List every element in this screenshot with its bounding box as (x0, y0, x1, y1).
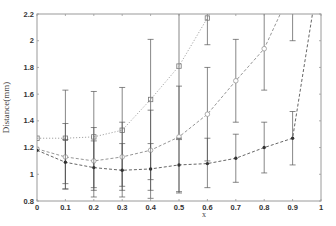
x-tick-label: 0.4 (145, 203, 156, 212)
x-tick-label: 0.2 (89, 203, 99, 212)
y-tick-label: 1.4 (24, 116, 35, 125)
y-tick-label: 1.6 (24, 90, 34, 99)
distance-vs-x-chart: 00.10.20.30.40.50.60.70.80.910.811.21.41… (0, 0, 336, 226)
filled-circle-marker (64, 161, 67, 164)
x-tick-label: 0.1 (60, 203, 70, 212)
y-tick-label: 1.8 (24, 63, 34, 72)
x-tick-label: 0.5 (174, 203, 184, 212)
circle-marker (234, 78, 239, 83)
x-tick-label: 0.9 (287, 203, 297, 212)
filled-circle-marker (149, 167, 152, 170)
filled-circle-marker (206, 162, 209, 165)
filled-circle-marker (92, 166, 95, 169)
circle-marker (262, 46, 267, 51)
y-tick-label: 1 (30, 170, 34, 179)
x-axis-label: x (202, 210, 206, 219)
filled-circle-marker (234, 157, 237, 160)
circle-marker (205, 112, 210, 117)
y-tick-label: 1.2 (24, 143, 34, 152)
x-tick-label: 0.3 (117, 203, 127, 212)
y-tick-label: 2 (30, 36, 34, 45)
x-tick-label: 0.8 (259, 203, 269, 212)
filled-circle-marker (177, 163, 180, 166)
x-tick-label: 0 (35, 203, 39, 212)
y-tick-label: 0.8 (24, 197, 34, 206)
chart-canvas: 00.10.20.30.40.50.60.70.80.910.811.21.41… (0, 0, 336, 226)
x-tick-label: 0.7 (231, 203, 241, 212)
filled-circle-marker (35, 149, 38, 152)
y-tick-label: 2.2 (24, 10, 34, 19)
x-tick-label: 1 (319, 203, 323, 212)
filled-circle-marker (121, 169, 124, 172)
filled-circle-marker (291, 137, 294, 140)
filled-circle-marker (263, 146, 266, 149)
y-axis-label: Distance(mm) (1, 82, 11, 133)
